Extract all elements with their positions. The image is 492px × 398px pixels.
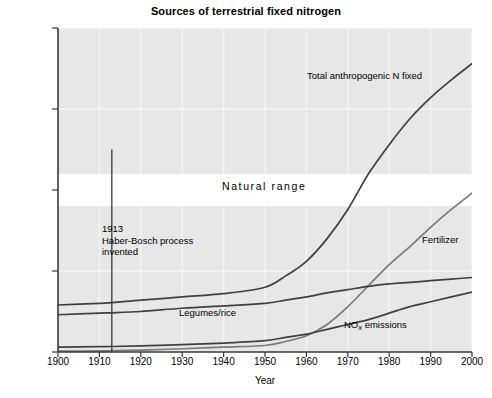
- annotation-haber-process: Haber-Bosch process: [102, 235, 193, 247]
- nox-suffix: emissions: [362, 319, 407, 330]
- chart-title: Sources of terrestrial fixed nitrogen: [0, 5, 492, 17]
- annotation-haber-invented: invented: [102, 246, 193, 258]
- x-tick-label-1900: 1900: [38, 356, 78, 367]
- x-tick-label-2000: 2000: [452, 356, 492, 367]
- x-tick-label-1950: 1950: [245, 356, 285, 367]
- x-tick-label-1920: 1920: [121, 356, 161, 367]
- x-tick-label-1990: 1990: [411, 356, 451, 367]
- series-label-total-anthropogenic: Total anthropogenic N fixed: [307, 70, 422, 82]
- x-tick-label-1940: 1940: [204, 356, 244, 367]
- series-label-nox-emissions: NOx emissions: [344, 319, 407, 334]
- annotation-haber-year: 1913: [102, 223, 193, 235]
- x-tick-label-1960: 1960: [286, 356, 326, 367]
- x-axis-title: Year: [58, 375, 472, 386]
- x-tick-label-1910: 1910: [79, 356, 119, 367]
- nox-prefix: NO: [344, 319, 358, 330]
- annotation-haber-bosch: 1913 Haber-Bosch process invented: [102, 223, 193, 258]
- x-tick-label-1970: 1970: [328, 356, 368, 367]
- chart-figure: Sources of terrestrial fixed nitrogen 20…: [0, 0, 492, 398]
- annotation-natural-range: Natural range: [222, 181, 306, 193]
- x-tick-label-1980: 1980: [369, 356, 409, 367]
- series-label-legumes-rice: Legumes/rice: [179, 307, 236, 319]
- series-label-fertilizer: Fertilizer: [422, 234, 458, 246]
- x-tick-label-1930: 1930: [162, 356, 202, 367]
